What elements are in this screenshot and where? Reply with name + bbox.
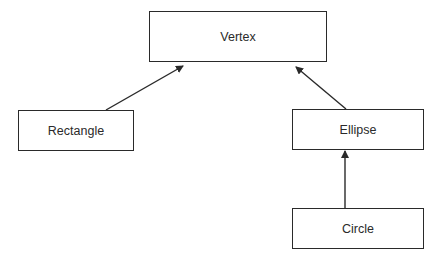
edge-rectangle-to-vertex <box>106 66 183 110</box>
node-label: Rectangle <box>48 124 104 138</box>
node-label: Ellipse <box>340 123 377 137</box>
node-vertex: Vertex <box>149 11 327 62</box>
node-label: Vertex <box>220 30 255 44</box>
node-label: Circle <box>342 222 374 236</box>
edge-ellipse-to-vertex <box>296 67 346 109</box>
node-circle: Circle <box>292 208 424 249</box>
node-rectangle: Rectangle <box>18 110 134 151</box>
node-ellipse: Ellipse <box>292 109 424 150</box>
